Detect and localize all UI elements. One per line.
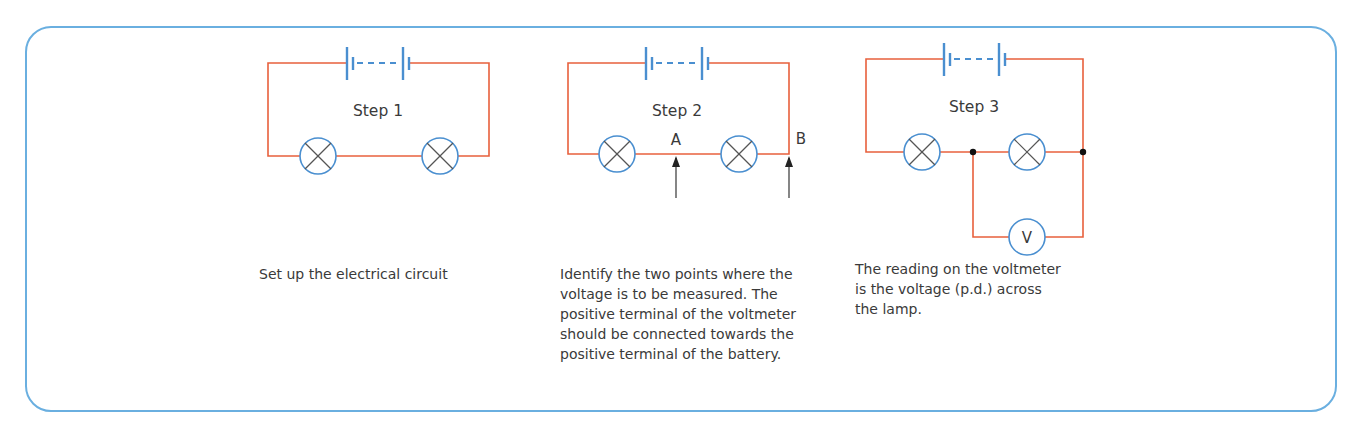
circuit-diagrams: Step 1 <box>0 0 1360 447</box>
step-1-circuit: Step 1 <box>268 47 489 174</box>
caption-line: is the voltage (p.d.) across <box>855 279 1061 299</box>
lamp-icon <box>599 136 635 172</box>
arrow-b-icon <box>785 156 793 198</box>
arrow-a-icon <box>672 156 680 198</box>
point-b-label: B <box>796 130 806 148</box>
voltmeter-symbol: V <box>1022 229 1033 247</box>
caption-line: positive terminal of the battery. <box>560 344 796 364</box>
caption-line: Identify the two points where the <box>560 264 796 284</box>
junction-dot <box>1080 149 1086 155</box>
step-1-caption: Set up the electrical circuit <box>259 264 448 284</box>
lamp-icon <box>904 134 940 170</box>
caption-line: Set up the electrical circuit <box>259 264 448 284</box>
battery-icon <box>347 47 409 80</box>
caption-line: The reading on the voltmeter <box>855 259 1061 279</box>
caption-line: voltage is to be measured. The <box>560 284 796 304</box>
step-2-circuit: Step 2 A B <box>568 47 806 198</box>
step-2-label: Step 2 <box>652 102 702 120</box>
caption-line: the lamp. <box>855 299 1061 319</box>
lamp-icon <box>721 136 757 172</box>
voltmeter-icon: V <box>1009 219 1045 255</box>
lamp-icon <box>422 138 458 174</box>
point-a-label: A <box>671 131 682 149</box>
battery-icon <box>646 47 708 80</box>
step-3-circuit: V Step 3 <box>866 43 1086 255</box>
caption-line: should be connected towards the <box>560 324 796 344</box>
step-2-caption: Identify the two points where the voltag… <box>560 264 796 364</box>
wires <box>866 59 1083 237</box>
step-3-caption: The reading on the voltmeter is the volt… <box>855 259 1061 319</box>
battery-icon <box>944 43 1005 76</box>
lamp-icon <box>300 138 336 174</box>
lamp-icon <box>1009 134 1045 170</box>
step-3-label: Step 3 <box>949 98 999 116</box>
caption-line: positive terminal of the voltmeter <box>560 304 796 324</box>
junction-dot <box>970 149 976 155</box>
step-1-label: Step 1 <box>353 102 403 120</box>
